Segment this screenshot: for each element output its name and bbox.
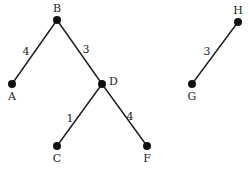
node-label-B: B: [53, 2, 61, 15]
edge-weight-D-C: 1: [67, 112, 74, 125]
edge-B-A: [12, 20, 57, 84]
node-label-A: A: [7, 90, 17, 103]
edge-weight-B-D: 3: [83, 43, 90, 56]
edge-B-D: [57, 20, 102, 84]
edge-H-G: [192, 22, 238, 84]
forest-diagram: 43143 BADCFHG: [0, 0, 249, 169]
node-label-C: C: [53, 152, 61, 165]
node-label-F: F: [143, 152, 151, 165]
edge-weight-B-A: 4: [23, 45, 30, 58]
node-F: [143, 142, 151, 150]
edge-weight-D-F: 4: [127, 110, 134, 123]
node-D: [98, 80, 106, 88]
edge-D-C: [57, 84, 102, 146]
edge-D-F: [102, 84, 147, 146]
node-B: [53, 16, 61, 24]
node-label-H: H: [233, 4, 243, 17]
node-label-D: D: [109, 75, 118, 88]
node-H: [234, 18, 242, 26]
edge-weight-H-G: 3: [204, 45, 211, 58]
node-C: [53, 142, 61, 150]
node-G: [188, 80, 196, 88]
node-A: [8, 80, 16, 88]
node-label-G: G: [188, 90, 197, 103]
